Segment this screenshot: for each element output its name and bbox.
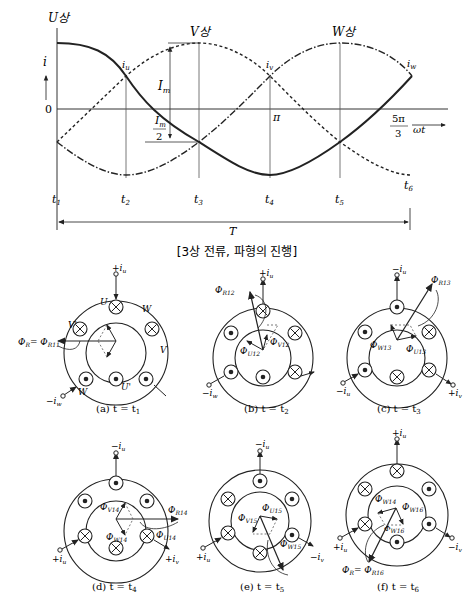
svg-text:t1: t1 [52, 193, 61, 207]
svg-text:t6: t6 [404, 179, 413, 193]
half-amplitude-denominator: 2 [156, 131, 162, 142]
svg-text:−iu: −iu [392, 264, 406, 275]
time-labels: t1 t2 t3 t4 t5 t6 [52, 179, 413, 207]
panel-b: ΦR12 ΦV12 ΦU12 +iu −iw (b) t = t2 [202, 268, 314, 416]
panel-a: ΦR= ΦR11 +iu −iw U W V' V W U' (a) t = t… [18, 263, 168, 416]
svg-text:+iv: +iv [448, 388, 462, 399]
svg-text:W: W [78, 387, 88, 397]
slot-dot [79, 372, 93, 386]
panel-c-caption: (c) t = t3 [377, 403, 421, 416]
svg-text:ΦW14: ΦW14 [375, 494, 396, 505]
diagram-canvas: U상 V상 W상 i 0 Im Im 2 iu iv iw π 5π 3 ωt … [0, 0, 473, 616]
waveform-caption: [3상 전류, 파형의 진행] [177, 244, 297, 259]
panel-e-caption: (e) t = t5 [240, 581, 284, 594]
svg-text:U': U' [121, 382, 131, 392]
svg-text:ΦV12: ΦV12 [270, 337, 290, 348]
svg-text:t4: t4 [265, 193, 274, 207]
panel-f-caption: (f) t = t6 [377, 581, 419, 594]
slot-cross [109, 300, 123, 314]
svg-text:t5: t5 [335, 193, 344, 207]
svg-text:+iv: +iv [165, 554, 179, 565]
svg-text:−iu: −iu [336, 386, 350, 397]
svg-text:ΦR12: ΦR12 [215, 285, 235, 296]
svg-text:−iw: −iw [202, 388, 218, 399]
panel-c: ΦR13 ΦW13 ΦU13 −iu −iu +iv (c) t = t3 [336, 264, 462, 416]
svg-text:ΦR= ΦR11: ΦR= ΦR11 [18, 337, 60, 348]
svg-text:−iw: −iw [46, 396, 62, 407]
panel-d: ΦV14 ΦW14 ΦU14 ΦR14 −iu +iu +iv (d) t = … [52, 441, 188, 594]
svg-text:W: W [142, 304, 152, 314]
svg-text:+iu: +iu [333, 542, 347, 553]
time-gridlines [126, 43, 340, 178]
u-phase-label: U상 [48, 11, 71, 25]
svg-text:+iu: +iu [259, 268, 273, 279]
svg-text:t2: t2 [121, 193, 130, 207]
svg-text:+iu: +iu [392, 428, 406, 439]
svg-text:ΦU12: ΦU12 [240, 346, 260, 357]
svg-text:ΦV14: ΦV14 [100, 502, 120, 513]
svg-text:ΦR13: ΦR13 [431, 275, 451, 286]
svg-text:+iu: +iu [52, 554, 66, 565]
svg-text:ΦR14: ΦR14 [168, 505, 188, 516]
v-phase-label: V상 [190, 25, 212, 39]
svg-text:ΦU14: ΦU14 [156, 530, 176, 541]
svg-text:ΦU15: ΦU15 [262, 503, 282, 514]
omega-t-label: ωt [413, 124, 426, 135]
svg-text:ΦV15: ΦV15 [238, 513, 258, 524]
end-angle-denominator: 3 [395, 128, 401, 139]
svg-text:ΦU13: ΦU13 [406, 344, 426, 355]
svg-text:−iv: −iv [448, 542, 462, 553]
panel-f: ΦW14 ΦW16 ΦW16 ΦR= ΦR16 +iu +iu −iv (f) … [333, 428, 462, 594]
w-phase-label: W상 [332, 25, 357, 39]
svg-text:+iu: +iu [112, 263, 126, 274]
svg-text:ΦW16: ΦW16 [384, 524, 405, 534]
svg-text:−iu: −iu [255, 439, 269, 450]
svg-text:ΦW16: ΦW16 [402, 502, 423, 513]
svg-text:ΦR= ΦR16: ΦR= ΦR16 [342, 565, 384, 576]
panel-e: ΦU15 ΦV15 ΦW15 −iu +iu −iv (e) t = t5 [196, 439, 324, 594]
period-label: T [229, 225, 238, 238]
svg-text:V: V [160, 345, 168, 355]
panel-d-caption: (d) t = t4 [92, 581, 137, 594]
svg-text:t3: t3 [194, 193, 203, 207]
svg-text:+iu: +iu [196, 552, 210, 563]
svg-text:−iv: −iv [310, 552, 324, 563]
waveform-chart: U상 V상 W상 i 0 Im Im 2 iu iv iw π 5π 3 ωt … [43, 11, 448, 259]
iv-label: iv [266, 59, 273, 72]
panel-b-caption: (b) t = t2 [244, 403, 289, 416]
svg-text:V': V' [68, 320, 77, 330]
pi-label: π [272, 111, 281, 124]
svg-text:−iu: −iu [111, 441, 125, 452]
current-axis-label: i [43, 55, 47, 69]
panel-a-caption: (a) t = t1 [96, 403, 140, 416]
iu-label: iu [122, 59, 130, 72]
origin-label: 0 [45, 103, 52, 116]
amplitude-label: Im [157, 79, 171, 95]
svg-text:U: U [100, 297, 108, 307]
iw-label: iw [407, 58, 416, 71]
end-angle-numerator: 5π [392, 113, 405, 124]
svg-text:ΦW13: ΦW13 [370, 340, 391, 351]
